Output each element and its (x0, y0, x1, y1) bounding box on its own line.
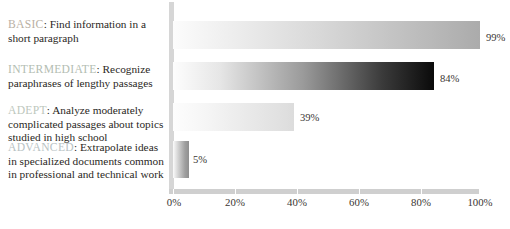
bar-value-intermediate: 84% (440, 74, 459, 85)
bar-fill (173, 103, 294, 131)
category-label-basic: BASIC: Find information in a short parag… (8, 18, 166, 45)
category-label-intermediate: INTERMEDIATE: Recognize paraphrases of l… (8, 63, 166, 90)
x-axis-line (169, 189, 479, 194)
x-axis-tickmark (297, 189, 298, 194)
x-tick-label-20: 20% (225, 197, 245, 208)
label-separator: : (47, 104, 50, 116)
bar-advanced (173, 141, 189, 178)
bar-fill (173, 62, 434, 90)
x-axis-tickmark (359, 189, 360, 194)
x-tick-label-100: 100% (467, 197, 492, 208)
bar-value-advanced: 5% (193, 155, 207, 166)
level-name-adept: ADEPT (8, 104, 47, 117)
category-label-advanced: ADVANCED: Extrapolate ideas in specializ… (8, 141, 166, 182)
x-tick-label-60: 60% (349, 197, 369, 208)
x-tick-label-80: 80% (411, 197, 431, 208)
bar-adept (173, 103, 294, 131)
plot-area: 99% 84% 39% 5% 0% 20% 40% 60% 80% 100% (169, 0, 510, 229)
x-tick-label-40: 40% (287, 197, 307, 208)
label-separator: : (97, 63, 100, 75)
bar-intermediate (173, 62, 434, 90)
bar-value-adept: 39% (300, 113, 319, 124)
bar-basic (173, 21, 480, 49)
category-label-column: BASIC: Find information in a short parag… (0, 0, 168, 200)
label-separator: : (44, 18, 47, 30)
bar-chart: BASIC: Find information in a short parag… (0, 0, 510, 229)
x-tick-label-0: 0% (167, 197, 181, 208)
bar-fill (173, 141, 189, 178)
bar-value-basic: 99% (486, 33, 505, 44)
label-separator: : (74, 141, 77, 153)
bar-fill (173, 21, 480, 49)
level-name-intermediate: INTERMEDIATE (8, 63, 97, 76)
x-axis-tickmark (421, 189, 422, 194)
x-axis-tickmark (173, 189, 174, 194)
level-name-basic: BASIC (8, 18, 44, 31)
level-name-advanced: ADVANCED (8, 141, 74, 154)
x-axis-tickmark (235, 189, 236, 194)
category-label-adept: ADEPT: Analyze moderately complicated pa… (8, 104, 166, 145)
